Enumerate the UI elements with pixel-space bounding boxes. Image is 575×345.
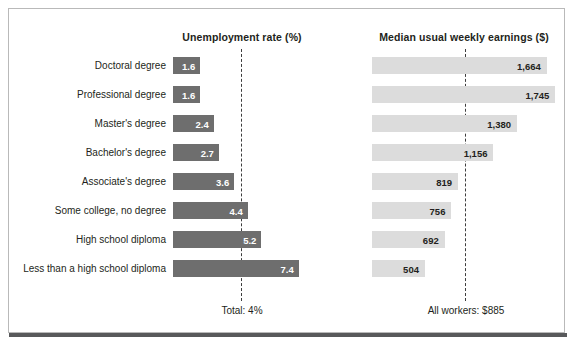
earnings-bar: 756 [372,202,451,219]
unemployment-bar: 1.6 [173,86,200,103]
earnings-bar: 692 [372,231,445,248]
column-header-unemployment-rate: Unemployment rate (%) [117,31,367,43]
row-label: Master's degree [21,118,166,130]
earnings-bar-value: 1,745 [526,89,550,100]
earnings-bar: 1,380 [372,115,517,132]
earnings-bar: 504 [372,260,425,277]
earnings-bar-value: 504 [403,263,419,274]
unemployment-bar-value: 3.6 [216,176,229,187]
unemployment-bar: 4.4 [173,202,248,219]
chart-row: Doctoral degree1.61,664 [9,51,564,80]
row-label: Doctoral degree [21,60,166,72]
chart-row: Some college, no degree4.4756 [9,196,564,225]
earnings-bar-value: 1,380 [487,118,511,129]
chart-row: Associate's degree3.6819 [9,167,564,196]
earnings-bar: 1,156 [372,144,493,161]
chart-row: Bachelor's degree2.71,156 [9,138,564,167]
row-label: Less than a high school diploma [21,263,166,275]
unemployment-bar-value: 2.4 [196,118,209,129]
chart-row: Master's degree2.41,380 [9,109,564,138]
earnings-bar-value: 692 [423,234,439,245]
earnings-bar: 1,745 [372,86,555,103]
earnings-bar-value: 1,664 [517,60,541,71]
unemployment-bar-value: 1.6 [182,89,195,100]
column-header-median-weekly-earnings: Median usual weekly earnings ($) [339,31,575,43]
unemployment-bar-value: 7.4 [281,263,294,274]
chart-row: Professional degree1.61,745 [9,80,564,109]
row-label: Professional degree [21,89,166,101]
unemployment-bar-value: 2.7 [201,147,214,158]
chart-row: High school diploma5.2692 [9,225,564,254]
reference-note-all-workers: All workers: $885 [428,305,505,316]
unemployment-bar: 2.7 [173,144,219,161]
earnings-bar: 1,664 [372,57,547,74]
unemployment-bar: 5.2 [173,231,261,248]
unemployment-bar: 7.4 [173,260,299,277]
chart-figure: Unemployment rate (%) Median usual weekl… [8,8,565,333]
unemployment-bar-value: 1.6 [182,60,195,71]
unemployment-bar: 2.4 [173,115,214,132]
unemployment-bar-value: 5.2 [243,234,256,245]
unemployment-bar-value: 4.4 [230,205,243,216]
earnings-bar-value: 819 [436,176,452,187]
earnings-bar-value: 1,156 [464,147,488,158]
row-label: Associate's degree [21,176,166,188]
row-label: Some college, no degree [21,205,166,217]
earnings-bar-value: 756 [430,205,446,216]
earnings-bar: 819 [372,173,458,190]
row-label: Bachelor's degree [21,147,166,159]
chart-row: Less than a high school diploma7.4504 [9,254,564,283]
figure-bottom-edge [9,333,567,337]
unemployment-bar: 3.6 [173,173,234,190]
reference-note-total: Total: 4% [221,305,262,316]
unemployment-bar: 1.6 [173,57,200,74]
row-label: High school diploma [21,234,166,246]
